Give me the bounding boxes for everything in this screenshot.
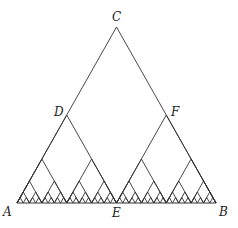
vertex-label-F: F bbox=[170, 105, 180, 119]
diagram-segment bbox=[207, 198, 210, 204]
vertex-labels: CDFAEB bbox=[2, 10, 228, 220]
diagram-segment bbox=[26, 198, 29, 204]
diagram-segment bbox=[151, 198, 154, 204]
diagram-segment bbox=[104, 198, 107, 204]
diagram-segment bbox=[57, 198, 60, 204]
diagram-segment bbox=[45, 198, 48, 204]
diagram-segment bbox=[64, 198, 67, 204]
vertex-label-E: E bbox=[111, 206, 121, 220]
diagram-segment bbox=[67, 198, 70, 204]
diagram-segment bbox=[141, 198, 144, 204]
diagram-segment bbox=[76, 198, 79, 204]
diagram-segment bbox=[117, 198, 120, 204]
diagram-segment bbox=[144, 198, 147, 204]
diagram-segment bbox=[154, 198, 157, 204]
diagram-segment bbox=[101, 198, 104, 204]
vertex-label-D: D bbox=[53, 105, 64, 119]
vertex-label-B: B bbox=[218, 205, 228, 219]
diagram-segment bbox=[79, 198, 82, 204]
diagram-segment bbox=[42, 198, 45, 204]
diagram-segment bbox=[36, 198, 39, 204]
diagram-segment bbox=[110, 198, 113, 204]
diagram-segment bbox=[92, 198, 95, 204]
vertex-label-A: A bbox=[2, 205, 12, 219]
diagram-segment bbox=[107, 198, 110, 204]
diagram-segment bbox=[20, 198, 23, 204]
diagram-segment bbox=[163, 198, 166, 204]
diagram-segment bbox=[157, 198, 160, 204]
diagram-segment bbox=[138, 198, 141, 204]
diagram-segment bbox=[191, 198, 194, 204]
diagram-segment bbox=[95, 198, 98, 204]
diagram-segment bbox=[185, 198, 188, 204]
diagram-segment bbox=[148, 198, 151, 204]
diagram-segment bbox=[194, 198, 197, 204]
diagram-segment bbox=[160, 198, 163, 204]
diagram-segment bbox=[98, 198, 101, 204]
diagram-segment bbox=[172, 198, 175, 204]
vertex-label-C: C bbox=[112, 10, 121, 24]
diagram-segment bbox=[123, 198, 126, 204]
diagram-segment bbox=[188, 198, 191, 204]
diagram-segment bbox=[48, 198, 51, 204]
diagram-segment bbox=[54, 198, 57, 204]
diagram-segment bbox=[51, 198, 54, 204]
diagram-segment bbox=[135, 198, 138, 204]
diagram-segment bbox=[166, 198, 169, 204]
diagram-segment bbox=[200, 198, 203, 204]
diagram-segment bbox=[73, 198, 76, 204]
diagram-segment bbox=[179, 198, 182, 204]
diagram-segment bbox=[210, 198, 213, 204]
diagram-segment bbox=[33, 198, 36, 204]
diagram-segment bbox=[70, 198, 73, 204]
diagram-segment bbox=[89, 198, 92, 204]
diagram-segment bbox=[120, 198, 123, 204]
diagram-segment bbox=[17, 198, 20, 204]
diagram-lines bbox=[17, 27, 216, 203]
diagram-segment bbox=[132, 198, 135, 204]
triangle-diagram: CDFAEB bbox=[0, 0, 238, 228]
diagram-segment bbox=[129, 198, 132, 204]
diagram-segment bbox=[182, 198, 185, 204]
diagram-segment bbox=[213, 198, 216, 204]
diagram-segment bbox=[176, 198, 179, 204]
diagram-segment bbox=[39, 198, 42, 204]
diagram-segment bbox=[61, 198, 64, 204]
diagram-segment bbox=[113, 198, 116, 204]
diagram-segment bbox=[23, 198, 26, 204]
diagram-segment bbox=[197, 198, 200, 204]
diagram-segment bbox=[204, 198, 207, 204]
diagram-segment bbox=[126, 198, 129, 204]
diagram-segment bbox=[29, 198, 32, 204]
diagram-segment bbox=[169, 198, 172, 204]
diagram-segment bbox=[82, 198, 85, 204]
diagram-segment bbox=[85, 198, 88, 204]
